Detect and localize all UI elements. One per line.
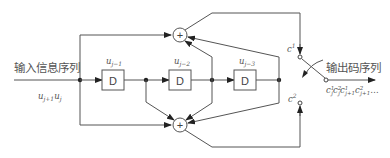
contact-label-c2: c2: [288, 92, 297, 104]
delay-state-2: uj−2: [174, 56, 190, 68]
switch-rotation-arc: [305, 60, 323, 75]
node2-to-bottom-adder: [146, 102, 174, 120]
delay-label-3: D: [241, 75, 249, 87]
delay-label-1: D: [109, 75, 117, 87]
output-label: 输出码序列: [326, 61, 381, 75]
top-adder-symbol: +: [177, 29, 183, 41]
encoder-diagram: 输入信息序列 uj+1uj D uj−1 D uj−2 D uj−3 + +: [0, 0, 390, 158]
input-label: 输入信息序列: [14, 61, 80, 75]
bottom-adder-symbol: +: [177, 119, 183, 131]
node4-to-bottom-adder: [188, 103, 279, 123]
contact-label-c1: c1: [287, 42, 296, 54]
delay-label-2: D: [176, 75, 184, 87]
bottom-output-line: [185, 107, 300, 147]
delay-state-3: uj−3: [239, 56, 255, 68]
switch-contact-c1: [298, 55, 302, 59]
output-sequence: c1jc2jc1j+1c2j+1…: [326, 85, 379, 97]
delay-state-1: uj−1: [106, 56, 122, 68]
switch-contact-c2: [298, 101, 302, 105]
switch-pivot: [324, 78, 328, 82]
input-sequence: uj+1uj: [38, 91, 62, 103]
node3-to-bottom-adder: [186, 103, 212, 120]
top-output-line: [185, 13, 300, 53]
node4-to-top-adder: [188, 37, 279, 57]
node3-to-top-adder: [185, 41, 212, 57]
